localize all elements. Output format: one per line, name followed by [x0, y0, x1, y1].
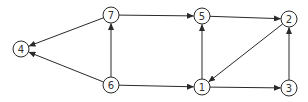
node-label: 6	[108, 80, 114, 91]
node-label: 7	[108, 10, 114, 21]
node-label: 4	[18, 44, 24, 55]
node-6: 6	[103, 77, 119, 93]
nodes-layer: 4765123	[13, 7, 297, 96]
edge-7-to-4	[29, 18, 104, 46]
node-1: 1	[194, 79, 210, 95]
node-label: 2	[286, 14, 292, 25]
node-5: 5	[194, 8, 210, 24]
edge-1-to-3	[210, 87, 281, 88]
node-7: 7	[103, 7, 119, 23]
node-2: 2	[281, 11, 297, 27]
directed-graph: 4765123	[0, 0, 308, 102]
edge-6-to-1	[119, 85, 194, 87]
node-label: 5	[199, 11, 205, 22]
node-label: 3	[286, 83, 292, 94]
edge-5-to-2	[210, 16, 281, 18]
edge-7-to-5	[119, 15, 194, 16]
edges-layer	[29, 15, 289, 88]
node-4: 4	[13, 41, 29, 57]
node-label: 1	[199, 82, 205, 93]
edge-2-to-1	[209, 24, 283, 82]
edge-6-to-4	[29, 52, 104, 82]
node-3: 3	[281, 80, 297, 96]
